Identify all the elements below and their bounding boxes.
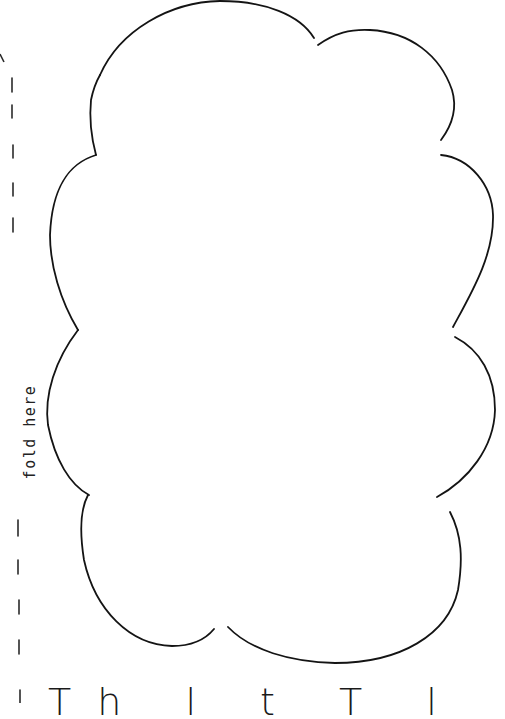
fold-here-label: fold here: [21, 385, 39, 480]
fold-dashed-line: [12, 78, 20, 703]
corner-mark: [0, 54, 4, 62]
bottom-caption-partial: Th l t T l: [48, 683, 463, 719]
cloud-outline: [47, 1, 495, 663]
